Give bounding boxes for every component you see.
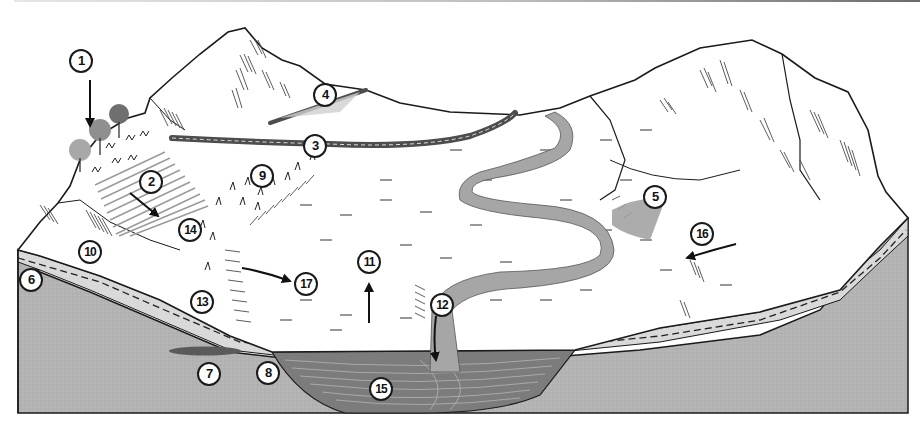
callout-4: 4 bbox=[313, 83, 337, 107]
callout-11: 11 bbox=[357, 250, 381, 274]
callout-10: 10 bbox=[78, 240, 102, 264]
callout-2: 2 bbox=[139, 170, 163, 194]
callout-6: 6 bbox=[19, 268, 43, 292]
callout-15: 15 bbox=[369, 377, 393, 401]
callout-17: 17 bbox=[294, 272, 318, 296]
callout-8: 8 bbox=[256, 361, 280, 385]
callout-12: 12 bbox=[430, 293, 454, 317]
callout-14: 14 bbox=[178, 218, 202, 242]
callout-9: 9 bbox=[250, 164, 274, 188]
watershed-diagram bbox=[0, 0, 924, 430]
perched-aquifer-lens bbox=[169, 347, 241, 356]
callout-16: 16 bbox=[690, 222, 714, 246]
callout-7: 7 bbox=[197, 362, 221, 386]
callout-1: 1 bbox=[69, 49, 93, 73]
callout-13: 13 bbox=[190, 290, 214, 314]
callout-3: 3 bbox=[303, 134, 327, 158]
callout-5: 5 bbox=[643, 185, 667, 209]
